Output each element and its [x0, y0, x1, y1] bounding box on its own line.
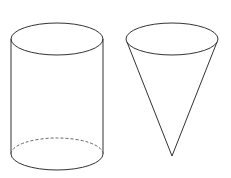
cone: [126, 23, 218, 156]
shapes-figure: [0, 0, 231, 178]
cylinder-bottom-back-arc-dashed: [11, 138, 103, 154]
cone-left-side: [127, 42, 172, 156]
diagram-canvas: [0, 0, 231, 178]
cylinder-bottom-front-arc: [11, 154, 103, 170]
cylinder: [11, 23, 103, 170]
cylinder-top-ellipse: [11, 23, 103, 55]
cone-top-ellipse: [126, 23, 218, 55]
cone-right-side: [172, 42, 217, 156]
